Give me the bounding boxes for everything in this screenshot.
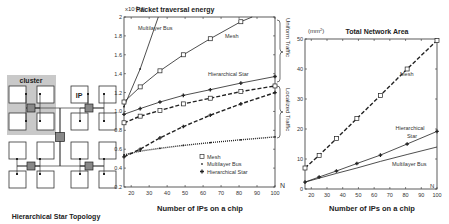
star-marker: [208, 88, 212, 92]
x-tick-label: 90: [418, 192, 424, 198]
star-marker: [158, 100, 162, 104]
router-icon: [85, 104, 93, 112]
y-tick-label: 1.2: [114, 90, 122, 96]
annot-mesh-area: Mesh: [400, 71, 413, 77]
dot-marker: [123, 154, 125, 156]
square-marker: [273, 84, 277, 88]
y-tick-label: 50: [297, 36, 303, 42]
star-marker: [379, 153, 383, 157]
square-marker: [122, 121, 126, 125]
y-tick-label: 1.4: [114, 71, 122, 77]
energy-x-label: Number of IPs on a chip: [157, 204, 243, 213]
port: [103, 173, 105, 175]
square-marker: [208, 37, 212, 41]
star-marker: [273, 75, 277, 79]
legend-multilayer-bus: Multilayer Bus: [207, 161, 242, 167]
diagram-caption: Hierarchical Star Topology: [12, 213, 101, 221]
x-tick-label: 30: [324, 192, 330, 198]
dot-marker: [139, 68, 141, 70]
central-router-icon: [56, 133, 65, 142]
dot-marker: [159, 147, 161, 149]
port: [39, 93, 41, 95]
x-tick-label: 70: [218, 190, 224, 196]
dot-marker: [240, 139, 242, 141]
x-tick-label: 40: [164, 190, 170, 196]
x-tick-label: 50: [182, 190, 188, 196]
x-tick-label: 70: [387, 192, 393, 198]
ip-label: IP: [76, 92, 83, 99]
port: [39, 173, 41, 175]
star-marker: [435, 130, 439, 134]
x-tick-label: 30: [146, 190, 152, 196]
dot-marker: [139, 150, 141, 152]
router-icon: [85, 162, 93, 170]
port: [25, 93, 27, 95]
square-marker: [122, 100, 126, 104]
x-tick-label: 90: [254, 190, 260, 196]
star-marker: [122, 112, 126, 116]
star-marker: [273, 91, 277, 95]
star-marker: [355, 162, 359, 166]
dot-marker: [123, 106, 125, 108]
y-tick-label: 0.6: [114, 146, 122, 152]
port: [39, 158, 41, 160]
figure-canvas: cluster IP Hierarchical Star Topology 20…: [0, 0, 449, 224]
annot-hierarchical-area-1: Hierarchical: [395, 125, 424, 131]
y-tick-label: 40: [297, 66, 303, 72]
star-marker: [138, 107, 142, 111]
router-icon: [27, 162, 35, 170]
localized-brace: [277, 86, 283, 138]
annot-multilayer-bus: Multilayer Bus: [138, 25, 173, 31]
square-marker: [303, 166, 307, 170]
annot-localized-traffic: Localized Traffic: [285, 88, 291, 131]
star-marker: [405, 142, 409, 146]
series-line: [124, 93, 275, 157]
square-marker: [239, 90, 243, 94]
square-marker: [435, 39, 439, 43]
area-y-unit: (mm2): [308, 27, 324, 34]
uniform-brace: [277, 20, 283, 82]
topology-grid: [9, 86, 116, 188]
series-line: [124, 86, 275, 123]
y-tick-label: 0.8: [114, 127, 122, 133]
cluster-label: cluster: [20, 77, 43, 84]
port: [39, 120, 41, 122]
star-marker: [239, 81, 243, 85]
x-tick-label: 40: [340, 192, 346, 198]
y-tick-label: 10: [297, 156, 303, 162]
y-tick-label: 1.8: [114, 33, 122, 39]
router-icon: [27, 104, 35, 112]
square-marker: [138, 114, 142, 118]
area-chart: 203040506070809010001020304050 Total Net…: [297, 27, 442, 213]
square-marker: [378, 93, 382, 97]
energy-x-end-label: N: [280, 182, 285, 189]
dot-marker: [182, 145, 184, 147]
x-tick-label: 60: [200, 190, 206, 196]
square-marker: [158, 109, 162, 113]
x-tick-label: 80: [403, 192, 409, 198]
energy-chart: 20304050607080901000.20.40.60.81.01.21.4…: [114, 5, 291, 213]
energy-legend: Mesh Multilayer Bus Hierarchical Star: [200, 154, 248, 175]
y-tick-label: 0.2: [114, 184, 122, 190]
y-tick-label: 0: [300, 186, 303, 192]
x-tick-label: 20: [308, 192, 314, 198]
annot-hierarchical-area-2: Star: [407, 133, 417, 139]
ip-block: [9, 142, 26, 159]
x-tick-label: 20: [128, 190, 134, 196]
port: [103, 120, 105, 122]
star-marker: [182, 125, 186, 129]
port: [103, 158, 105, 160]
port: [103, 93, 105, 95]
ip-block: [71, 142, 88, 159]
port: [79, 120, 81, 122]
annot-hierarchical-star: Hierarchical Star: [208, 71, 249, 77]
x-tick-label: 60: [371, 192, 377, 198]
square-marker: [181, 102, 185, 106]
square-marker: [317, 153, 321, 157]
legend-star-marker: [200, 170, 204, 174]
topology-diagram: cluster IP Hierarchical Star Topology: [7, 75, 116, 221]
square-marker: [239, 20, 243, 24]
x-tick-label: 100: [270, 190, 279, 196]
star-marker: [182, 94, 186, 98]
y-tick-label: 1.0: [114, 108, 122, 114]
